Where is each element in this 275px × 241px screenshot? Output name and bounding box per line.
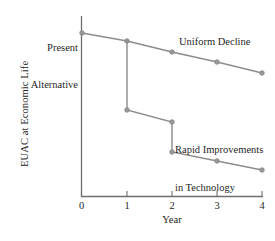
present-alternative-line2: Alternative bbox=[4, 79, 78, 91]
rapid-improvements-annotation: Rapid Improvements in Technology bbox=[175, 119, 263, 220]
chart-figure: EUAC at Economic Life Year 0 1 2 3 4 Pre… bbox=[0, 0, 275, 241]
rapid-improvements-marker-step2 bbox=[170, 150, 175, 155]
present-alternative-annotation: Present Alternative bbox=[4, 17, 78, 116]
rapid-improvements-marker-step1 bbox=[125, 108, 130, 113]
uniform-decline-marker-3 bbox=[215, 60, 220, 65]
x-tick-label-1: 1 bbox=[117, 200, 137, 211]
rapid-improvements-line1: Rapid Improvements bbox=[175, 144, 263, 157]
uniform-decline-marker-2 bbox=[170, 50, 175, 55]
uniform-decline-marker-4 bbox=[260, 71, 265, 76]
present-alternative-line1: Present bbox=[4, 42, 78, 54]
x-tick-label-0: 0 bbox=[72, 200, 92, 211]
rapid-improvements-line2: in Technology bbox=[175, 182, 263, 195]
uniform-decline-marker-0 bbox=[80, 31, 85, 36]
uniform-decline-annotation: Uniform Decline bbox=[179, 36, 250, 48]
rapid-improvements-marker-2 bbox=[170, 120, 175, 125]
